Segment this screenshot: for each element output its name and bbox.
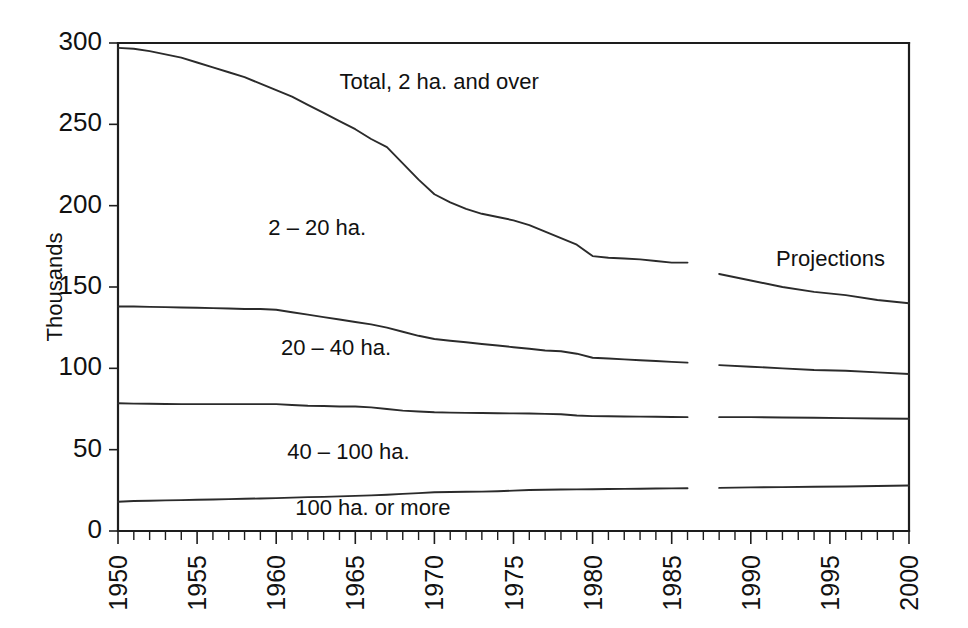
series-line-40-100-ha-historical — [118, 403, 688, 417]
x-tick-label: 1990 — [737, 555, 765, 611]
y-tick-label: 300 — [59, 26, 102, 56]
series-label-100-plus: 100 ha. or more — [295, 495, 450, 520]
x-tick-label: 1985 — [658, 555, 686, 611]
x-tick-label: 1970 — [420, 555, 448, 611]
series-line-100-ha-or-more-projection — [719, 485, 909, 487]
x-tick-label: 1955 — [183, 555, 211, 611]
series-line-2-20-ha-historical — [118, 307, 688, 363]
x-axis-tick-labels: 1950195519601965197019751980198519901995… — [104, 555, 923, 611]
series-label-20-40: 20 – 40 ha. — [281, 335, 391, 360]
y-tick-label: 100 — [59, 351, 102, 381]
series-line-total-2-ha-and-over-projection — [719, 274, 909, 303]
projections-label: Projections — [776, 246, 885, 271]
chart-container: 050100150200250300 195019551960196519701… — [0, 0, 968, 628]
series-line-2-20-ha-projection — [719, 365, 909, 374]
x-tick-label: 1960 — [262, 555, 290, 611]
x-axis-ticks — [118, 531, 909, 544]
x-tick-label: 1950 — [104, 555, 132, 611]
series-label-2-20: 2 – 20 ha. — [268, 215, 366, 240]
y-tick-label: 250 — [59, 107, 102, 137]
y-axis-title-label: Thousands — [42, 233, 67, 342]
x-tick-label: 2000 — [895, 555, 923, 611]
series-line-40-100-ha-projection — [719, 417, 909, 419]
y-tick-label: 50 — [73, 433, 102, 463]
x-tick-label: 1965 — [341, 555, 369, 611]
x-tick-label: 1995 — [816, 555, 844, 611]
y-tick-label: 200 — [59, 189, 102, 219]
chart-axes — [118, 43, 909, 531]
y-axis-ticks — [109, 43, 118, 531]
series-lines — [118, 48, 909, 502]
series-label-40-100: 40 – 100 ha. — [287, 439, 409, 464]
line-chart: 050100150200250300 195019551960196519701… — [0, 0, 968, 628]
x-tick-label: 1975 — [500, 555, 528, 611]
y-tick-label: 0 — [88, 514, 102, 544]
y-axis-title: Thousands — [42, 233, 67, 342]
x-tick-label: 1980 — [579, 555, 607, 611]
total-series-label: Total, 2 ha. and over — [339, 69, 538, 94]
chart-annotations: ProjectionsTotal, 2 ha. and over2 – 20 h… — [268, 69, 885, 520]
